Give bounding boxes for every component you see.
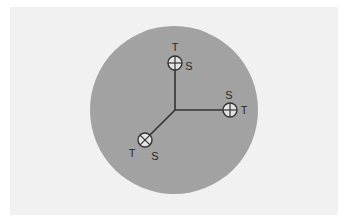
sensor-label: S: [151, 150, 158, 162]
sensor-label: S: [225, 89, 232, 101]
sensor-label: T: [129, 147, 136, 159]
three-sensor-diagram: T S S T T S: [0, 0, 349, 222]
sensor-label: T: [241, 104, 248, 116]
sensor-label: T: [172, 41, 179, 53]
sensor-label: S: [185, 60, 192, 72]
